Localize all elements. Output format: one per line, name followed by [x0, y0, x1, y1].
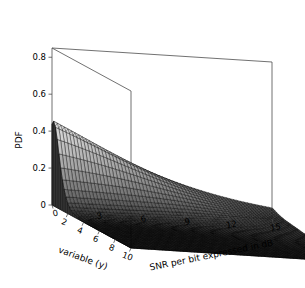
- y-tick-0: 0: [52, 208, 59, 219]
- x-tick-8: 8: [107, 242, 116, 253]
- figure-3d-surface-plot: 00.20.40.60.824681003691215 PDF variable…: [0, 0, 305, 288]
- x-tick-4: 4: [76, 225, 85, 236]
- z-axis-label: PDF: [14, 131, 24, 149]
- z-tick-0.8: 0.8: [32, 52, 46, 62]
- z-tick-0: 0: [41, 200, 46, 210]
- z-tick-0.6: 0.6: [32, 89, 46, 99]
- x-axis-label: variable (y): [57, 245, 109, 272]
- x-tick-6: 6: [92, 233, 101, 244]
- surface-plot-canvas: 00.20.40.60.824681003691215 PDF variable…: [0, 0, 305, 288]
- x-tick-2: 2: [60, 216, 69, 227]
- x-tick-10: 10: [121, 250, 135, 263]
- y-tick-15: 15: [269, 221, 282, 233]
- y-tick-12: 12: [225, 218, 238, 230]
- z-tick-0.2: 0.2: [32, 163, 46, 173]
- z-tick-0.4: 0.4: [32, 126, 46, 136]
